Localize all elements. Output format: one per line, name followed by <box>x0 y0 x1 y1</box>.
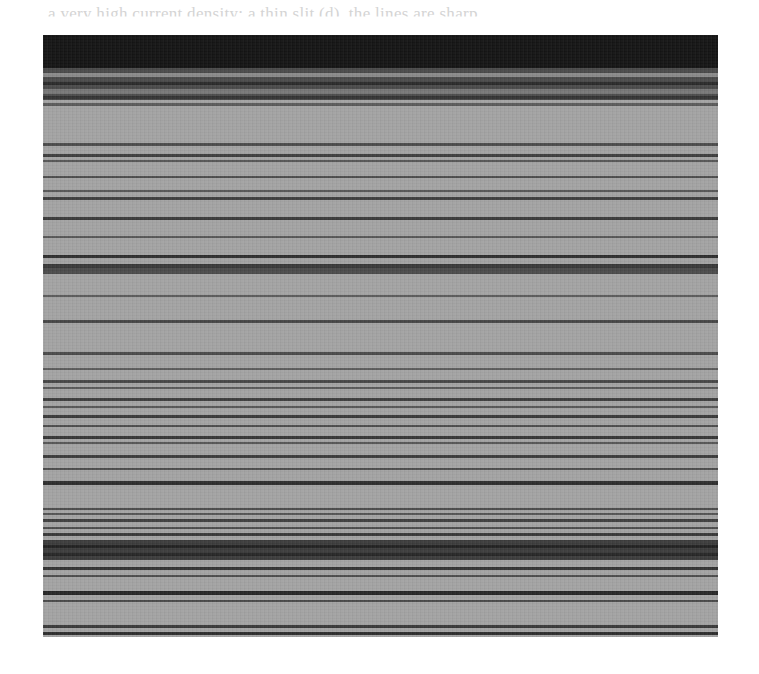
dark-band-line <box>43 632 718 635</box>
dark-band-line <box>43 575 718 577</box>
dark-band-line <box>43 236 718 238</box>
dark-band-line <box>43 455 718 458</box>
dark-band-line <box>43 268 718 274</box>
dark-band-line <box>43 591 718 595</box>
dark-band-line <box>43 89 718 94</box>
dark-band-line <box>43 82 718 85</box>
dark-band-line <box>43 508 718 510</box>
dark-band-line <box>43 540 718 560</box>
dark-band-line <box>43 553 718 556</box>
dark-band-line <box>43 197 718 200</box>
dark-band-line <box>43 600 718 602</box>
dark-band-line <box>43 398 718 401</box>
dark-band-line <box>43 96 718 99</box>
dark-band-line <box>43 468 718 470</box>
cropped-header-text: a very high current density; a thin slit… <box>48 4 728 24</box>
dark-band-line <box>43 380 718 383</box>
dark-band-line <box>43 368 718 370</box>
dark-band-line <box>43 387 718 389</box>
dark-band-line <box>43 436 718 439</box>
dark-band-line <box>43 295 718 297</box>
dark-band-line <box>43 415 718 418</box>
dark-band-line <box>43 217 718 220</box>
dark-band-line <box>43 406 718 408</box>
dark-band-line <box>43 625 718 628</box>
dark-band-line <box>43 103 718 106</box>
dark-band-line <box>43 176 718 178</box>
dark-band-line <box>43 143 718 146</box>
top-dark-region <box>43 35 718 68</box>
dark-band-line <box>43 545 718 548</box>
dark-band-line <box>43 513 718 515</box>
dark-band-line <box>43 154 718 157</box>
dark-band-line <box>43 190 718 192</box>
dark-band-line <box>43 481 718 485</box>
dark-band-line <box>43 567 718 570</box>
dark-band-line <box>43 442 718 444</box>
dark-band-line <box>43 425 718 427</box>
dark-band-line <box>43 255 718 258</box>
dark-band-line <box>43 352 718 355</box>
dark-band-line <box>43 160 718 162</box>
spectral-plate-photograph <box>43 35 718 637</box>
dark-band-line <box>43 527 718 529</box>
dark-band-line <box>43 519 718 522</box>
dark-band-line <box>43 533 718 536</box>
dark-band-line <box>43 73 718 77</box>
dark-band-line <box>43 320 718 323</box>
